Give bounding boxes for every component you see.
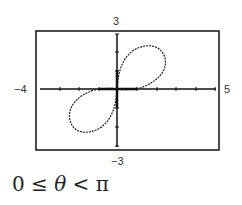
xmin-label: −4 xyxy=(14,83,27,95)
xmax-label: 5 xyxy=(224,83,230,95)
theta-range-caption: 0 ≤ θ < π xyxy=(12,172,109,196)
caption-right: < π xyxy=(66,172,109,196)
caption-theta: θ xyxy=(54,172,66,196)
axis-highlight xyxy=(99,70,137,108)
ymax-label: 3 xyxy=(113,15,119,27)
viewing-window-frame xyxy=(36,31,219,150)
ymin-label: −3 xyxy=(111,155,124,167)
caption-left: 0 ≤ xyxy=(12,172,54,196)
